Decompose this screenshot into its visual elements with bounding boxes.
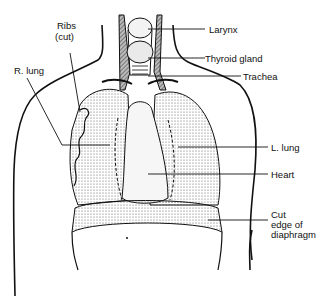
label-trachea: Trachea (243, 71, 278, 82)
neck-structures (102, 15, 178, 90)
label-diaphragm-3: diaphragm (271, 229, 316, 240)
label-ribs-cut: (cut) (55, 31, 74, 42)
thyroid-shape (127, 41, 153, 63)
label-ribs: Ribs (57, 20, 76, 31)
label-right-lung: R. lung (14, 65, 44, 76)
label-larynx: Larynx (209, 24, 238, 35)
larynx-shape (128, 18, 152, 38)
label-left-lung: L. lung (271, 142, 300, 153)
anatomy-diagram: Larynx Thyroid gland Trachea Ribs (cut) … (0, 0, 328, 296)
label-thyroid-gland: Thyroid gland (205, 53, 263, 64)
diaphragm-edge (72, 201, 222, 233)
label-heart: Heart (271, 169, 294, 180)
